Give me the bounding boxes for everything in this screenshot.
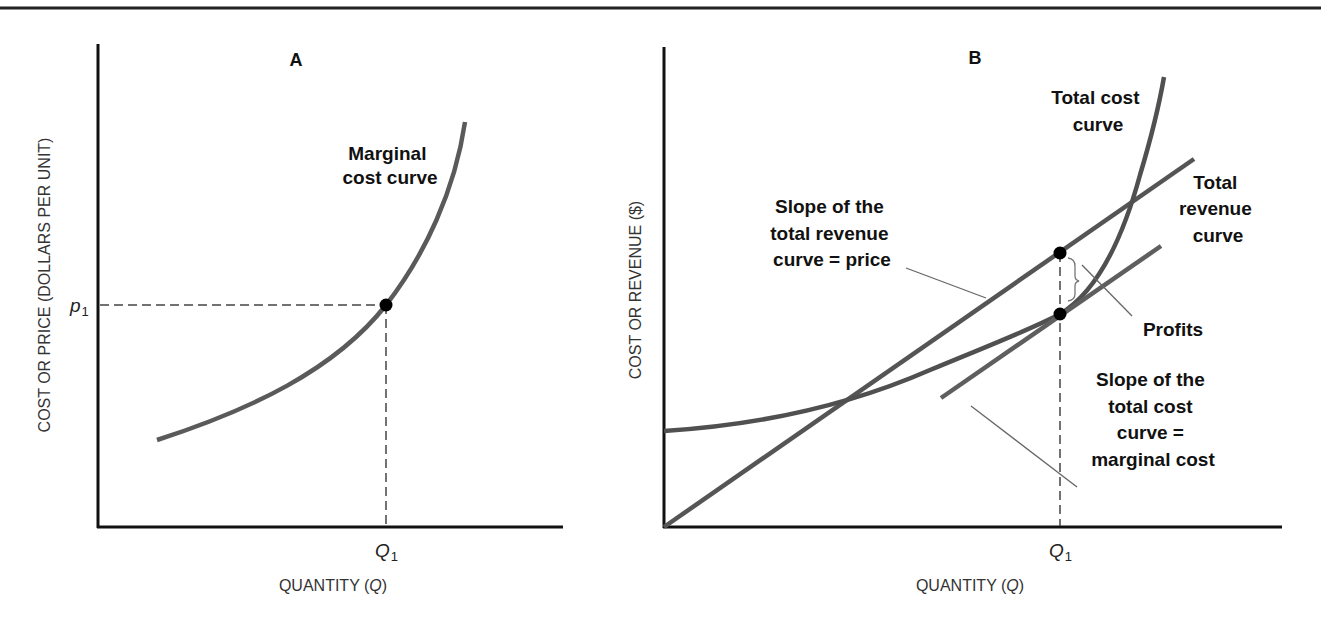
total-cost-dot [1054, 308, 1067, 321]
panel-a: A COST OR PRICE (DOLLARS PER UNIT) Margi… [36, 44, 563, 594]
slope-tr-leader [906, 268, 986, 298]
slope-tr-label: Slope of the total revenue curve = price [770, 196, 894, 270]
panel-b-letter: B [969, 48, 982, 68]
total-cost-label: Total cost curve [1051, 87, 1145, 135]
panel-a-q1-tick: Q1 [375, 540, 398, 564]
slope-tc-label: Slope of the total cost curve = marginal… [1091, 369, 1215, 470]
panel-b-y-axis-title: COST OR REVENUE ($) [627, 201, 644, 379]
panel-a-equilibrium-dot [380, 299, 393, 312]
economics-figure: A COST OR PRICE (DOLLARS PER UNIT) Margi… [0, 0, 1321, 617]
profits-label: Profits [1143, 319, 1203, 340]
panel-a-p1-tick: p1 [69, 295, 89, 319]
total-revenue-curve [664, 159, 1194, 527]
profits-brace [1068, 258, 1079, 301]
panel-a-y-axis-title: COST OR PRICE (DOLLARS PER UNIT) [36, 138, 53, 433]
slope-tc-leader [971, 406, 1077, 487]
total-revenue-dot [1054, 247, 1067, 260]
total-revenue-label: Total revenue curve [1179, 172, 1257, 246]
panel-b-x-axis-title: QUANTITY (Q) [916, 577, 1024, 594]
panel-a-letter: A [290, 50, 303, 70]
marginal-cost-label: Marginal cost curve [342, 143, 437, 188]
panel-b-q1-tick: Q1 [1049, 540, 1072, 564]
panel-a-x-axis-title: QUANTITY (Q) [279, 577, 387, 594]
panel-b: B COST OR REVENUE ($) Total cost curve T… [627, 47, 1282, 594]
